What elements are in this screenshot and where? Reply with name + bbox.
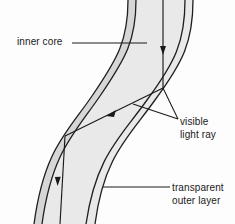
label-transparent-outer-layer: transparent outer layer: [172, 182, 224, 207]
fibre-inner-core: [42, 0, 193, 224]
label-transparent-outer-layer-line-2: outer layer: [172, 195, 224, 208]
label-visible-light-ray-line-2: light ray: [180, 129, 216, 142]
label-visible-light-ray-line-1: visible: [180, 116, 216, 129]
label-inner-core-line-1: inner core: [17, 36, 62, 49]
label-transparent-outer-layer-line-1: transparent: [172, 182, 224, 195]
label-inner-core: inner core: [17, 36, 62, 49]
label-visible-light-ray: visible light ray: [180, 116, 216, 141]
fibre-optic-diagram: inner core visible light ray transparent…: [0, 0, 235, 224]
